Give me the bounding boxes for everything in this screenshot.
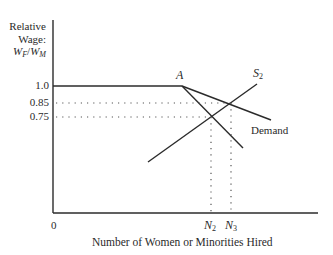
- x-tick-n2: N2: [204, 219, 216, 233]
- y-tick-0-85: 0.85: [9, 97, 49, 108]
- x-tick-n3: N3: [225, 219, 237, 233]
- demand-line-steep: [182, 86, 243, 148]
- y-axis-label-line2: Wage:: [9, 33, 46, 46]
- y-axis-label-line1: Relative: [9, 20, 46, 33]
- demand-label: Demand: [251, 125, 288, 136]
- demand-line-flat: [182, 86, 271, 120]
- y-tick-1-0: 1.0: [9, 80, 49, 91]
- point-a-label: A: [176, 69, 183, 81]
- origin-label: 0: [51, 220, 57, 231]
- y-tick-0-75: 0.75: [9, 111, 49, 122]
- supply-s2-label: S2: [253, 67, 263, 81]
- y-axis-label-line3: WF/WM: [9, 45, 46, 62]
- supply-line-s2: [148, 84, 257, 162]
- y-axis-label: Relative Wage: WF/WM: [9, 20, 46, 62]
- x-axis-label: Number of Women or Minorities Hired: [92, 237, 273, 249]
